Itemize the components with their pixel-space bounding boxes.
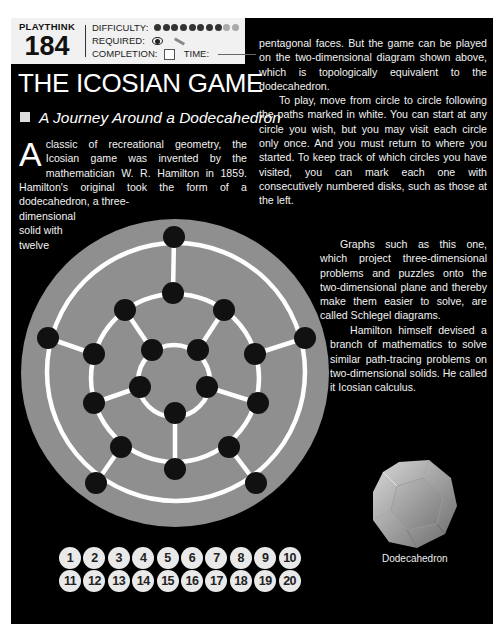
number-disk[interactable]: 8 [230, 547, 252, 569]
node[interactable] [85, 472, 107, 494]
node[interactable] [164, 402, 186, 424]
number-disk[interactable]: 5 [157, 547, 179, 569]
number-disk[interactable]: 20 [279, 570, 301, 592]
number-disk[interactable]: 16 [181, 570, 203, 592]
node[interactable] [164, 458, 186, 480]
number-disk[interactable]: 10 [279, 547, 301, 569]
node[interactable] [37, 327, 59, 349]
dodecahedron-caption: Dodecahedron [382, 553, 448, 564]
node[interactable] [114, 299, 136, 321]
node[interactable] [162, 282, 184, 304]
node[interactable] [247, 392, 269, 414]
node[interactable] [244, 343, 266, 365]
number-disk[interactable]: 6 [181, 547, 203, 569]
node[interactable] [294, 327, 316, 349]
node[interactable] [245, 472, 267, 494]
number-disk[interactable]: 18 [230, 570, 252, 592]
node[interactable] [163, 226, 185, 248]
number-disk[interactable]: 3 [108, 547, 130, 569]
number-disk[interactable]: 1 [59, 547, 81, 569]
node[interactable] [213, 299, 235, 321]
dodecahedron-illustration [371, 458, 461, 550]
node[interactable] [83, 392, 105, 414]
node[interactable] [196, 376, 218, 398]
node[interactable] [110, 436, 132, 458]
node[interactable] [141, 339, 163, 361]
node[interactable] [83, 343, 105, 365]
node[interactable] [187, 339, 209, 361]
number-disk[interactable]: 13 [108, 570, 130, 592]
node[interactable] [129, 376, 151, 398]
number-disk[interactable]: 11 [59, 570, 81, 592]
node[interactable] [218, 436, 240, 458]
number-disk[interactable]: 15 [157, 570, 179, 592]
